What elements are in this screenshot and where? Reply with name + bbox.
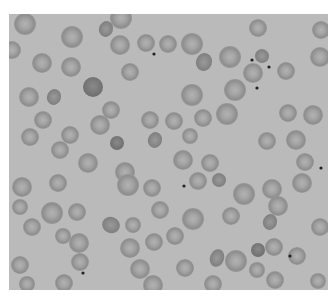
red-blood-cell <box>121 63 139 81</box>
platelet-dot <box>267 65 270 68</box>
red-blood-cell <box>143 179 161 197</box>
red-blood-cell <box>14 14 36 35</box>
irregular-cell <box>193 51 214 73</box>
red-blood-cell <box>222 207 240 225</box>
red-blood-cell <box>90 115 110 135</box>
red-blood-cell <box>243 63 263 83</box>
red-blood-cell <box>110 35 130 55</box>
irregular-cell <box>207 247 226 269</box>
red-blood-cell <box>49 174 67 192</box>
red-blood-cell <box>12 177 32 197</box>
red-blood-cell <box>176 259 194 277</box>
red-blood-cell <box>68 203 86 221</box>
red-blood-cell <box>173 150 193 170</box>
red-blood-cell <box>216 103 238 125</box>
red-blood-cell <box>9 41 21 59</box>
red-blood-cell <box>143 275 163 290</box>
red-blood-cell <box>219 46 241 68</box>
red-blood-cell <box>224 79 246 101</box>
red-blood-cell <box>181 33 203 55</box>
red-blood-cell <box>11 256 29 274</box>
platelet-dot <box>250 58 253 61</box>
red-blood-cell <box>61 26 83 48</box>
red-blood-cell <box>117 174 139 196</box>
red-blood-cell <box>279 104 297 122</box>
red-blood-cell <box>310 47 328 67</box>
red-blood-cell <box>120 238 140 258</box>
red-blood-cell <box>265 238 283 256</box>
red-blood-cell <box>181 84 203 106</box>
red-blood-cell <box>258 132 276 150</box>
red-blood-cell <box>233 183 255 205</box>
red-blood-cell <box>78 153 98 173</box>
cells-canvas <box>9 14 328 290</box>
red-blood-cell <box>141 111 159 129</box>
red-blood-cell <box>23 218 41 236</box>
red-blood-cell <box>268 196 288 216</box>
red-blood-cell <box>182 128 198 144</box>
irregular-cell <box>45 87 64 107</box>
red-blood-cell <box>310 273 326 289</box>
red-blood-cell <box>194 109 212 127</box>
red-blood-cell <box>55 274 73 290</box>
red-blood-cell <box>189 172 207 190</box>
red-blood-cell <box>312 21 328 39</box>
dark-cell <box>251 243 265 257</box>
irregular-cells <box>45 19 280 269</box>
red-blood-cell <box>61 126 79 144</box>
red-blood-cell <box>69 233 89 253</box>
irregular-cell <box>146 130 165 150</box>
platelet-dot <box>319 166 322 169</box>
red-blood-cell <box>125 217 141 233</box>
platelet-dot <box>81 271 84 274</box>
red-blood-cell <box>266 271 284 289</box>
red-blood-cell <box>201 154 219 172</box>
red-blood-cell <box>19 276 35 290</box>
red-blood-cell <box>277 62 295 80</box>
red-blood-cell <box>51 141 69 159</box>
red-blood-cell <box>262 179 282 199</box>
red-blood-cell <box>12 199 28 215</box>
red-blood-cell <box>61 57 81 77</box>
dark-cell <box>83 77 103 97</box>
red-blood-cell <box>41 202 63 224</box>
blood-smear-micrograph <box>9 14 328 290</box>
irregular-cell <box>100 214 122 235</box>
red-blood-cell <box>32 53 52 73</box>
red-blood-cells <box>9 14 328 290</box>
red-blood-cell <box>165 112 183 130</box>
red-blood-cell <box>21 128 39 146</box>
platelet-dot <box>182 184 185 187</box>
red-blood-cell <box>71 253 89 271</box>
dark-cell <box>110 136 124 150</box>
red-blood-cell <box>19 87 39 107</box>
red-blood-cell <box>130 259 150 279</box>
platelet-dot <box>255 86 258 89</box>
red-blood-cell <box>55 228 71 244</box>
red-blood-cell <box>34 111 52 129</box>
red-blood-cell <box>286 130 306 150</box>
red-blood-cell <box>166 227 184 245</box>
red-blood-cell <box>296 153 314 171</box>
red-blood-cell <box>204 275 222 290</box>
platelet-dot <box>288 254 291 257</box>
red-blood-cell <box>151 201 169 219</box>
red-blood-cell <box>182 208 204 230</box>
red-blood-cell <box>137 34 155 52</box>
red-blood-cell <box>311 218 328 236</box>
irregular-cell <box>253 47 271 65</box>
red-blood-cell <box>145 233 163 251</box>
red-blood-cell <box>225 250 247 272</box>
red-blood-cell <box>292 173 312 193</box>
red-blood-cell <box>249 19 267 37</box>
red-blood-cell <box>110 14 132 29</box>
red-blood-cell <box>303 105 323 125</box>
red-blood-cell <box>159 35 177 53</box>
platelet-dot <box>152 52 155 55</box>
irregular-cell <box>210 171 228 189</box>
red-blood-cell <box>249 262 265 278</box>
